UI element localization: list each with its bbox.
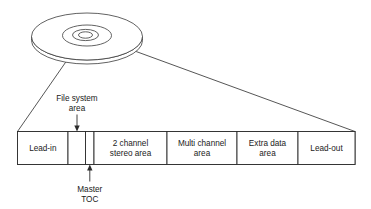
segment-two-channel-stereo[interactable] (94, 132, 167, 165)
diagram-canvas: Lead-in 2 channel stereo area Multi chan… (0, 0, 371, 209)
segment-extra-data[interactable] (237, 132, 298, 165)
segment-label-extra-data-line2: area (259, 149, 276, 158)
disc-layout-bar: Lead-in 2 channel stereo area Multi chan… (18, 132, 356, 165)
optical-disc (32, 13, 143, 64)
segment-label-extra-data-line1: Extra data (249, 139, 287, 148)
segment-label-lead-in: Lead-in (29, 144, 57, 153)
segment-label-lead-out: Lead-out (310, 144, 343, 153)
segment-label-multi-channel-line1: Multi channel (178, 139, 226, 148)
callout-file-system-line2: area (69, 104, 86, 113)
callout-file-system-line1: File system (56, 94, 98, 103)
callout-file-system-area: File system area (56, 94, 98, 132)
disc-layout-figure: Lead-in 2 channel stereo area Multi chan… (0, 0, 371, 209)
callout-master-toc: Master TOC (77, 165, 102, 204)
segment-file-system[interactable] (68, 132, 86, 165)
segment-master-toc[interactable] (86, 132, 95, 165)
disc-center-hole (79, 32, 93, 38)
segment-label-two-channel-line2: stereo area (110, 149, 152, 158)
callout-master-toc-line2: TOC (81, 195, 98, 204)
segment-label-multi-channel-line2: area (194, 149, 211, 158)
callout-master-toc-line1: Master (77, 185, 102, 194)
segment-multi-channel[interactable] (167, 132, 237, 165)
callout-file-system-arrowhead (74, 126, 79, 132)
segment-label-two-channel-line1: 2 channel (113, 139, 149, 148)
